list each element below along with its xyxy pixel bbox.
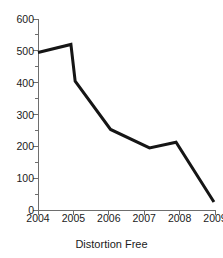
- x-axis-label: Distortion Free: [0, 238, 223, 250]
- x-axis-tick-label: 2006: [89, 213, 129, 224]
- y-axis-tick-label: 400: [0, 77, 34, 88]
- line-chart: 0100200300400500600 20042005200620072008…: [0, 0, 223, 258]
- x-axis-tick-label: 2009: [195, 213, 223, 224]
- y-axis-tick-label: 200: [0, 141, 34, 152]
- y-axis-tick-label: 100: [0, 173, 34, 184]
- y-axis-tick-label: 300: [0, 109, 34, 120]
- x-axis-tick-label: 2005: [53, 213, 93, 224]
- y-axis-tick-label: 500: [0, 46, 34, 57]
- data-series-line: [38, 19, 215, 210]
- x-axis-tick-label: 2004: [18, 213, 58, 224]
- x-axis-tick-label: 2008: [160, 213, 200, 224]
- x-axis-tick-label: 2007: [124, 213, 164, 224]
- plot-area: [38, 19, 215, 210]
- y-axis-tick-label: 600: [0, 14, 34, 25]
